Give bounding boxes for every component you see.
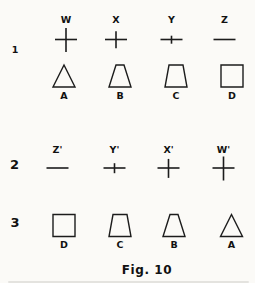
label-d: D: [60, 239, 68, 250]
triangle-shape: [221, 215, 243, 237]
trapezoid-shape: [165, 65, 187, 87]
label-y-prime: Y': [109, 144, 120, 155]
label-a: A: [60, 90, 68, 101]
label-w-prime: W': [217, 144, 230, 155]
label-d: D: [228, 90, 236, 101]
label-c: C: [117, 239, 124, 250]
trapezoid-shape: [163, 215, 185, 237]
scan-artifact: [8, 281, 249, 283]
label-a: A: [228, 239, 236, 250]
label-w: W: [61, 14, 72, 25]
triangle-shape: [53, 65, 75, 87]
label-b: B: [170, 239, 177, 250]
label-y: Y: [167, 14, 175, 25]
row-3-label: 3: [10, 215, 19, 230]
row-2-label: 2: [10, 157, 19, 172]
trapezoid-shape: [109, 215, 131, 237]
label-x: X: [112, 14, 120, 25]
symbols-layer: WXYZABCDZ'Y'X'W'DCBA: [47, 14, 244, 250]
label-z: Z: [221, 14, 228, 25]
square-shape: [221, 65, 243, 87]
label-z-prime: Z': [53, 144, 63, 155]
figure-caption: Fig. 10: [122, 263, 173, 277]
figure-10-canvas: 1 2 3 WXYZABCDZ'Y'X'W'DCBA Fig. 10: [0, 0, 255, 283]
trapezoid-shape: [109, 65, 131, 87]
label-c: C: [173, 90, 180, 101]
square-shape: [53, 215, 75, 237]
row-1-label: 1: [12, 44, 19, 55]
figure-page: 1 2 3 WXYZABCDZ'Y'X'W'DCBA Fig. 10: [0, 0, 255, 283]
label-x-prime: X': [163, 144, 173, 155]
label-b: B: [116, 90, 123, 101]
